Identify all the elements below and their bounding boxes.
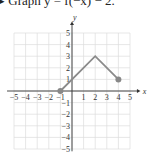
x-tick-label: 5: [128, 93, 132, 102]
y-tick-label: −2: [61, 110, 70, 119]
x-tick-label: 3: [105, 93, 109, 102]
function-graph: xy−5−4−3−2−11234554321−1−2−3−4−5: [0, 0, 150, 163]
x-axis-label: x: [142, 87, 147, 96]
y-tick-label: −4: [61, 133, 70, 142]
endpoint-dot: [57, 88, 63, 94]
y-tick-label: 4: [66, 41, 70, 50]
x-tick-label: −5: [10, 93, 19, 102]
x-tick-label: 2: [93, 93, 97, 102]
y-tick-label: −3: [61, 122, 70, 131]
x-tick-label: −3: [33, 93, 42, 102]
y-tick-label: 3: [66, 52, 70, 61]
y-tick-label: 5: [66, 29, 70, 38]
graph-line: [60, 56, 118, 91]
x-tick-label: −2: [45, 93, 54, 102]
endpoint-dot: [115, 76, 121, 82]
x-axis-arrow-icon: [137, 89, 140, 93]
x-tick-label: 4: [116, 93, 120, 102]
y-tick-label: −5: [61, 145, 70, 154]
y-axis-label: y: [72, 13, 77, 22]
y-tick-label: −1: [61, 99, 70, 108]
x-tick-label: 1: [82, 93, 86, 102]
y-tick-label: 2: [66, 64, 70, 73]
x-tick-label: −4: [21, 93, 30, 102]
